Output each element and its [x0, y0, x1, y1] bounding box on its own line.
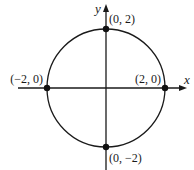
x-axis-label: x	[183, 72, 190, 87]
point-marker	[162, 85, 168, 91]
y-axis-arrow-icon	[103, 4, 109, 12]
point-marker	[103, 26, 109, 32]
circle-diagram: x y (0, 2)(2, 0)(−2, 0)(0, −2)	[0, 0, 194, 170]
point-label: (0, −2)	[109, 151, 142, 165]
point-label: (2, 0)	[135, 72, 161, 86]
point-label: (−2, 0)	[10, 72, 43, 86]
point-marker	[44, 85, 50, 91]
point-marker	[103, 144, 109, 150]
point-label: (0, 2)	[109, 12, 135, 26]
y-axis-label: y	[93, 1, 101, 16]
